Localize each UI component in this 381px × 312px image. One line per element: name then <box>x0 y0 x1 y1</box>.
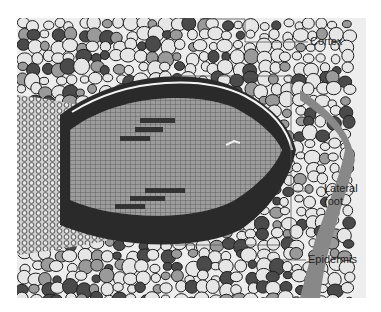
cortex-cell <box>292 52 301 60</box>
cortex-cell <box>188 29 198 40</box>
cortex-cell <box>290 225 303 239</box>
cortex-cell <box>160 62 170 71</box>
cortex-cell <box>296 43 306 51</box>
cortex-cell <box>28 40 42 54</box>
cortex-cell <box>266 271 279 282</box>
cortex-cell <box>32 53 43 65</box>
cortex-cell <box>210 240 224 252</box>
cortex-cell <box>343 205 353 216</box>
cortex-cell <box>304 196 316 208</box>
cortex-cell <box>163 263 172 271</box>
cortex-cell <box>113 65 125 75</box>
cortex-cell <box>282 109 291 117</box>
cortex-cell <box>57 76 67 85</box>
cortex-cell <box>343 115 355 128</box>
cortex-cell <box>290 247 303 259</box>
cortex-cell <box>292 297 300 305</box>
cortex-cell <box>326 81 341 94</box>
cortex-cell <box>150 264 160 273</box>
cortex-cell <box>126 294 136 303</box>
cortex-cell <box>297 207 306 216</box>
cortex-cell <box>345 297 354 306</box>
cortex-cell <box>221 31 231 40</box>
cortex-cell <box>342 49 354 62</box>
cortex-cell <box>331 55 340 64</box>
cortex-cell <box>52 29 65 41</box>
cortex-cell <box>245 238 256 248</box>
cortex-cell <box>280 197 288 206</box>
cortex-cell <box>120 48 136 62</box>
cortex-cell <box>63 39 78 52</box>
cortex-cell <box>305 185 313 194</box>
cortex-cell <box>305 140 315 148</box>
cortex-cell <box>62 250 77 262</box>
cortex-cell <box>134 50 147 62</box>
cortex-cell <box>271 227 283 237</box>
cortex-cell <box>248 260 256 268</box>
cortex-cell <box>316 18 327 29</box>
cortex-cell <box>102 19 112 27</box>
cortex-cell <box>17 85 26 93</box>
cortex-cell <box>342 21 351 28</box>
cortex-cell <box>244 49 259 64</box>
cortex-cell <box>67 75 77 85</box>
cortex-cell <box>328 153 338 161</box>
cortex-cell <box>147 249 159 260</box>
cortex-cell <box>146 36 161 52</box>
cortex-cell <box>329 138 341 148</box>
cortex-cell <box>295 195 303 202</box>
lateral-root-label-line2: root <box>324 195 343 208</box>
cortex-cell <box>123 273 137 285</box>
cortex-cell <box>101 283 113 296</box>
cortex-cell <box>176 281 187 292</box>
cortex-cell <box>208 27 223 40</box>
cortex-cell <box>193 40 207 51</box>
cortex-cell <box>113 283 123 292</box>
cortex-cell <box>283 187 294 196</box>
cortex-cell <box>236 31 244 39</box>
cortex-cell <box>27 29 40 40</box>
cortex-cell <box>174 39 184 49</box>
cortex-cell <box>174 62 184 71</box>
cortex-cell <box>29 284 39 293</box>
cortex-cell <box>230 50 244 64</box>
cortex-cell <box>233 40 242 48</box>
cortex-cell <box>219 294 234 310</box>
cortex-cell <box>62 279 77 295</box>
cortex-cell <box>75 271 86 280</box>
cortex-cell <box>99 268 114 283</box>
cortex-cell <box>316 54 325 62</box>
cortex-cell <box>341 97 351 106</box>
cortex-cell <box>279 52 290 62</box>
cortex-cell <box>44 21 54 29</box>
cortex-cell <box>270 62 281 73</box>
cortex-cell <box>41 41 50 50</box>
cortex-cell <box>267 238 280 250</box>
cortex-cell <box>284 19 294 27</box>
cortex-cell <box>292 163 301 172</box>
cortex-cell <box>223 21 234 31</box>
cortex-cell <box>103 74 113 82</box>
cortex-cell <box>269 29 279 39</box>
cortex-cell <box>171 270 183 282</box>
cortex-cell <box>49 261 62 272</box>
cortex-cell <box>50 295 63 308</box>
cortex-cell <box>303 54 314 63</box>
cortex-cell <box>280 62 290 71</box>
cortex-cell <box>188 249 197 257</box>
cortex-cell <box>113 17 124 29</box>
cortex-cell <box>246 30 255 38</box>
cortex-cell <box>80 76 88 83</box>
cortex-label: Cortex <box>310 35 342 48</box>
cortex-cell <box>235 260 247 272</box>
cortex-cell <box>316 130 330 142</box>
cortex-cell <box>280 207 289 215</box>
cortex-cell <box>161 272 170 280</box>
cortex-cell <box>208 51 219 63</box>
cortex-cell <box>187 297 196 305</box>
cortex-cell <box>194 292 208 305</box>
cortex-cell <box>30 294 43 307</box>
cortex-cell <box>101 251 113 262</box>
cortex-cell <box>283 39 295 50</box>
cortex-cell <box>74 58 90 74</box>
